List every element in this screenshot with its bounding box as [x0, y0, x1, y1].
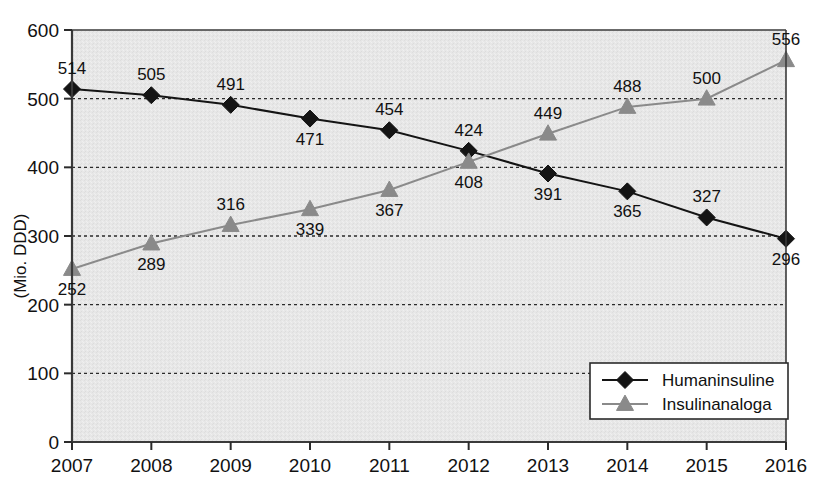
- x-axis-tick-label: 2014: [606, 455, 649, 476]
- data-point-label: 316: [216, 195, 244, 214]
- y-axis-tick-label: 300: [27, 226, 59, 247]
- data-point-label: 500: [692, 69, 720, 88]
- data-point-label: 454: [375, 100, 403, 119]
- x-axis-tick-label: 2009: [210, 455, 252, 476]
- y-axis-title: (Mio. DDD): [11, 214, 30, 299]
- x-axis-tick-label: 2012: [448, 455, 490, 476]
- legend-label: Humaninsuline: [662, 371, 774, 390]
- chart-legend[interactable]: HumaninsulineInsulinanaloga: [590, 363, 788, 419]
- x-axis-tick-label: 2008: [130, 455, 172, 476]
- x-axis-tick-label: 2010: [289, 455, 331, 476]
- y-axis-tick-label: 500: [27, 89, 59, 110]
- y-axis-tick-label: 0: [48, 432, 59, 453]
- data-point-label: 471: [296, 130, 324, 149]
- chart-container: 0100200300400500600200720082009201020112…: [0, 0, 822, 492]
- data-point-label: 327: [692, 187, 720, 206]
- data-point-label: 252: [58, 280, 86, 299]
- data-point-label: 367: [375, 201, 403, 220]
- data-point-label: 488: [613, 77, 641, 96]
- x-axis-tick-label: 2016: [765, 455, 807, 476]
- x-axis-tick-label: 2013: [527, 455, 569, 476]
- data-point-label: 339: [296, 220, 324, 239]
- x-axis-tick-label: 2011: [369, 455, 410, 476]
- data-point-label: 391: [534, 185, 562, 204]
- y-axis-tick-label: 400: [27, 157, 59, 178]
- y-axis-tick-label: 100: [27, 363, 59, 384]
- y-axis-tick-label: 600: [27, 20, 59, 41]
- legend-label: Insulinanaloga: [662, 395, 772, 414]
- x-axis-tick-label: 2007: [51, 455, 93, 476]
- data-point-label: 556: [772, 30, 800, 49]
- data-point-label: 514: [58, 59, 86, 78]
- data-point-label: 365: [613, 202, 641, 221]
- data-point-label: 491: [216, 75, 244, 94]
- data-point-label: 449: [534, 104, 562, 123]
- y-axis-tick-label: 200: [27, 295, 59, 316]
- data-point-label: 289: [137, 255, 165, 274]
- line-chart: 0100200300400500600200720082009201020112…: [0, 0, 822, 492]
- data-point-label: 424: [454, 121, 482, 140]
- data-point-label: 505: [137, 65, 165, 84]
- data-point-label: 296: [772, 250, 800, 269]
- x-axis-tick-label: 2015: [686, 455, 728, 476]
- data-point-label: 408: [454, 173, 482, 192]
